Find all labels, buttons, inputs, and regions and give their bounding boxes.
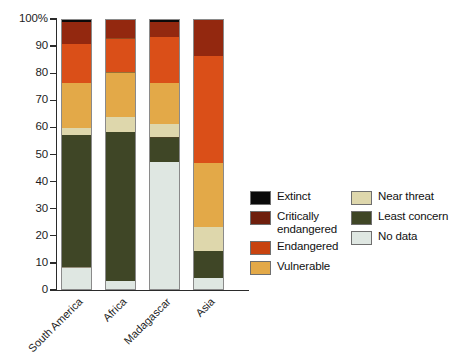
legend-label: Endangered: [277, 240, 338, 253]
legend-label: No data: [378, 230, 417, 243]
bar-segment: [62, 19, 91, 22]
bar-segment: [62, 267, 91, 289]
bar-segment: [62, 22, 91, 44]
legend-swatch-icon: [351, 191, 372, 205]
legend-swatch-icon: [250, 191, 271, 205]
stacked-bar-chart: 0102030405060708090100% South AmericaAfr…: [0, 0, 457, 359]
bar-segment: [106, 281, 135, 289]
bar-segment: [150, 19, 179, 22]
bar-segment: [62, 83, 91, 128]
bar-segment: [150, 37, 179, 83]
y-axis-tick-label: 30: [35, 203, 48, 215]
y-axis-tick-label: 0: [42, 284, 48, 296]
bar-segment: [150, 124, 179, 138]
y-axis-tick-label: 60: [35, 121, 48, 133]
legend-label: Near threat: [378, 190, 434, 203]
legend-item[interactable]: Endangered: [250, 240, 350, 255]
bar-column: [105, 19, 136, 290]
legend-item[interactable]: Extinct: [250, 190, 350, 205]
bar-segment: [62, 128, 91, 135]
bar-column: [149, 19, 180, 290]
bar-segment: [194, 19, 223, 56]
y-axis-tick-label: 100%: [19, 13, 48, 25]
legend-item[interactable]: No data: [351, 230, 451, 245]
bar-segment: [150, 22, 179, 37]
legend-item[interactable]: Critically endangered: [250, 210, 350, 235]
legend-column: Near threatLeast concernNo data: [351, 190, 451, 250]
legend-label: Vulnerable: [277, 260, 330, 273]
legend-item[interactable]: Vulnerable: [250, 260, 350, 275]
legend-item[interactable]: Least concern: [351, 210, 451, 225]
bar-segment: [106, 132, 135, 281]
bar-segment: [106, 19, 135, 38]
bar-segment: [194, 56, 223, 163]
bar-segment: [194, 278, 223, 289]
x-axis-line: [56, 290, 249, 291]
bar-segment: [150, 83, 179, 124]
bar-segment: [194, 251, 223, 278]
legend-label: Least concern: [378, 210, 448, 223]
legend-swatch-icon: [250, 211, 271, 225]
bar-segment: [62, 135, 91, 268]
bar-column: [61, 19, 92, 290]
bar-segment: [106, 38, 135, 72]
y-axis-tick-label: 20: [35, 230, 48, 242]
legend-column: ExtinctCritically endangeredEndangeredVu…: [250, 190, 350, 280]
legend-swatch-icon: [250, 241, 271, 255]
y-axis-tick-label: 70: [35, 94, 48, 106]
legend-label: Extinct: [277, 190, 310, 203]
bar-segment: [106, 72, 135, 117]
legend-swatch-icon: [351, 211, 372, 225]
bar-segment: [150, 137, 179, 161]
y-axis-tick-label: 90: [35, 40, 48, 52]
bar-segment: [150, 162, 179, 289]
bar-segment: [194, 163, 223, 227]
y-axis-tick-label: 10: [35, 257, 48, 269]
y-axis-tick-label: 40: [35, 176, 48, 188]
bar-segment: [62, 44, 91, 83]
legend-swatch-icon: [250, 261, 271, 275]
y-axis-tick-label: 50: [35, 149, 48, 161]
legend-swatch-icon: [351, 231, 372, 245]
x-axis-label: Africa: [0, 296, 128, 359]
y-axis-tick-label: 80: [35, 67, 48, 79]
bar-column: [193, 19, 224, 290]
plot-area: [57, 19, 240, 290]
legend-item[interactable]: Near threat: [351, 190, 451, 205]
bar-segment: [194, 227, 223, 251]
legend-label: Critically endangered: [277, 210, 350, 235]
bar-segment: [106, 117, 135, 132]
